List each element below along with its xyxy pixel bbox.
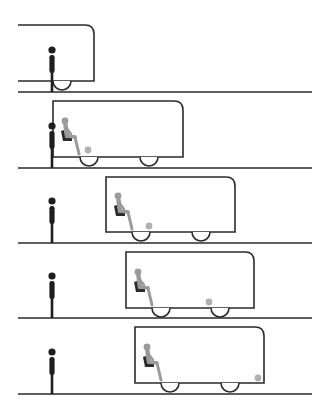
seated-passenger-icon bbox=[114, 193, 132, 229]
wheel-icon bbox=[140, 157, 158, 166]
wheel-icon bbox=[53, 81, 71, 90]
torso bbox=[49, 281, 54, 299]
passenger-shin bbox=[157, 363, 161, 380]
head bbox=[48, 46, 55, 53]
wheel-icon bbox=[221, 383, 239, 392]
bus-body bbox=[126, 252, 254, 308]
wheel-icon bbox=[192, 232, 210, 241]
wheel-icon bbox=[152, 308, 170, 317]
panel-2 bbox=[18, 101, 312, 168]
standing-person-icon bbox=[48, 348, 55, 394]
panel-5 bbox=[18, 327, 312, 394]
torso bbox=[49, 357, 54, 375]
ball-icon bbox=[206, 299, 213, 306]
seated-passenger-icon bbox=[61, 118, 79, 154]
seated-passenger-icon bbox=[143, 344, 161, 380]
legs bbox=[51, 297, 54, 318]
passenger-shin bbox=[75, 137, 79, 154]
wheel-icon bbox=[132, 232, 150, 241]
wheel-icon bbox=[80, 157, 98, 166]
panel-3 bbox=[18, 177, 312, 243]
ball-icon bbox=[255, 375, 262, 382]
ball-icon bbox=[85, 147, 92, 154]
head bbox=[48, 348, 55, 355]
legs bbox=[51, 147, 54, 168]
head bbox=[48, 197, 55, 204]
bus-body bbox=[18, 25, 94, 81]
wheel-icon bbox=[161, 383, 179, 392]
standing-person-icon bbox=[48, 122, 55, 168]
bus-body bbox=[135, 327, 264, 383]
passenger-shin bbox=[128, 212, 132, 229]
bus-body bbox=[53, 101, 183, 157]
head bbox=[48, 272, 55, 279]
panel-1 bbox=[18, 25, 312, 92]
head bbox=[48, 122, 55, 129]
torso bbox=[49, 131, 54, 149]
standing-person-icon bbox=[48, 197, 55, 243]
passenger-shin bbox=[148, 288, 152, 305]
wheel-icon bbox=[211, 308, 229, 317]
seated-passenger-icon bbox=[134, 269, 152, 305]
standing-person-icon bbox=[48, 272, 55, 318]
torso bbox=[49, 55, 54, 73]
legs bbox=[51, 71, 54, 92]
legs bbox=[51, 373, 54, 394]
ball-icon bbox=[146, 223, 153, 230]
legs bbox=[51, 222, 54, 243]
panel-4 bbox=[18, 252, 312, 318]
bus-motion-diagram bbox=[0, 0, 330, 419]
torso bbox=[49, 206, 54, 224]
bus-body bbox=[106, 177, 235, 232]
